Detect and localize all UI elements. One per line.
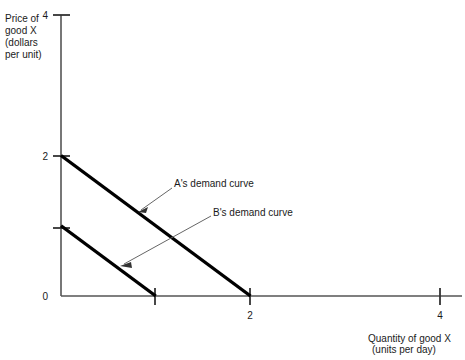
x-tick-label-2: 2 (247, 310, 253, 321)
x-axis-caption-line-1: Quantity of good X (368, 333, 451, 344)
y-axis-caption-line-4: per unit) (5, 49, 42, 60)
x-axis-caption-line-2: (units per day) (372, 344, 436, 355)
y-axis-caption-line-1: Price of (5, 13, 39, 24)
y-tick-label-0: 0 (42, 291, 48, 302)
y-axis-caption: Price of good X (dollars per unit) (5, 13, 42, 60)
y-tick-label-2: 2 (42, 151, 48, 162)
x-tick-label-4: 4 (437, 310, 443, 321)
demand-curve-chart: 4 2 0 2 4 Price of good X (dollars per u… (0, 0, 465, 360)
y-axis-caption-line-2: good X (5, 25, 37, 36)
chart-figure: 4 2 0 2 4 Price of good X (dollars per u… (0, 0, 465, 360)
y-axis-caption-line-3: (dollars (5, 37, 38, 48)
y-tick-label-4: 4 (42, 10, 48, 21)
annotation-label-curve-b: B's demand curve (213, 207, 293, 218)
annotation-label-curve-a: A's demand curve (174, 178, 254, 189)
